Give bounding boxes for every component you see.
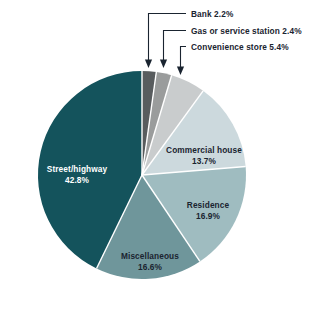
leader-line-convenience-store <box>181 47 187 68</box>
leader-line-gas-or-service-station <box>164 31 187 61</box>
pie-chart-figure: Bank 2.2% Gas or service station 2.4% Co… <box>0 0 311 309</box>
callout-label-gas-or-service-station: Gas or service station 2.4% <box>191 26 302 36</box>
callout-label-bank: Bank 2.2% <box>191 9 234 19</box>
pie-chart-svg: Bank 2.2% Gas or service station 2.4% Co… <box>0 0 311 309</box>
arrowhead-convenience-store <box>177 67 184 76</box>
slice-label-street-highway-value: 42.8% <box>65 175 90 185</box>
slice-label-miscellaneous-name: Miscellaneous <box>121 251 179 261</box>
arrowhead-gas-or-service-station <box>160 60 167 69</box>
slice-label-residence-value: 16.9% <box>196 211 221 221</box>
slice-label-residence-name: Residence <box>187 200 230 210</box>
callout-labels: Bank 2.2% Gas or service station 2.4% Co… <box>191 9 302 52</box>
slice-label-commercial-house-value: 13.7% <box>192 156 217 166</box>
slice-label-commercial-house-name: Commercial house <box>166 145 242 155</box>
callout-label-convenience-store: Convenience store 5.4% <box>191 42 289 52</box>
slice-label-street-highway-name: Street/highway <box>47 164 108 174</box>
slice-label-miscellaneous-value: 16.6% <box>138 262 163 272</box>
callout-leader-lines <box>145 14 186 76</box>
arrowhead-bank <box>145 60 152 69</box>
